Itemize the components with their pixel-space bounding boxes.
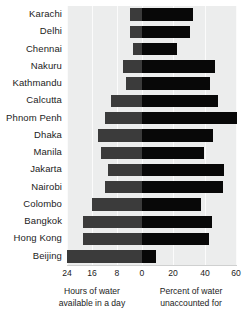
bar-hours-available xyxy=(126,77,142,89)
axis-caption-hours-line2: available in a day xyxy=(44,298,140,310)
bar-hours-available xyxy=(92,198,142,210)
bar-percent-unaccounted xyxy=(142,129,213,141)
bar-percent-unaccounted xyxy=(142,43,177,55)
tick-hours-8: 8 xyxy=(105,268,129,278)
chart-figure: KarachiDelhiChennaiNakuruKathmanduCalcut… xyxy=(0,0,252,320)
bar-row: Bangkok xyxy=(0,213,252,230)
bar-percent-unaccounted xyxy=(142,8,193,20)
tick-pct-20: 20 xyxy=(161,268,185,278)
bar-hours-available xyxy=(130,8,143,20)
bar-row: Kathmandu xyxy=(0,75,252,92)
axis-caption-hours: Hours of water available in a day xyxy=(44,286,140,309)
bar-row: Jakarta xyxy=(0,161,252,178)
bar-percent-unaccounted xyxy=(142,95,218,107)
bar-percent-unaccounted xyxy=(142,181,223,193)
bar-hours-available xyxy=(105,112,143,124)
category-label: Delhi xyxy=(0,24,62,38)
bar-hours-available xyxy=(83,233,142,245)
bar-row: Hong Kong xyxy=(0,230,252,247)
tick-pct-40: 40 xyxy=(193,268,217,278)
axis-caption-percent-line2: unaccounted for xyxy=(143,298,239,310)
bar-percent-unaccounted xyxy=(142,112,237,124)
bar-hours-available xyxy=(111,95,142,107)
bar-row: Colombo xyxy=(0,196,252,213)
bar-hours-available xyxy=(130,26,143,38)
bar-percent-unaccounted xyxy=(142,250,156,262)
bar-percent-unaccounted xyxy=(142,26,190,38)
bar-percent-unaccounted xyxy=(142,77,210,89)
bar-row: Manila xyxy=(0,144,252,161)
category-label: Hong Kong xyxy=(0,231,62,245)
bar-row: Nakuru xyxy=(0,58,252,75)
tick-hours-24: 24 xyxy=(55,268,79,278)
bar-row: Chennai xyxy=(0,41,252,58)
bar-percent-unaccounted xyxy=(142,164,224,176)
category-label: Kathmandu xyxy=(0,76,62,90)
category-label: Nairobi xyxy=(0,180,62,194)
bar-percent-unaccounted xyxy=(142,147,204,159)
bar-row: Beijing xyxy=(0,248,252,265)
bar-hours-available xyxy=(101,147,142,159)
category-label: Dhaka xyxy=(0,128,62,142)
category-label: Nakuru xyxy=(0,59,62,73)
category-label: Karachi xyxy=(0,7,62,21)
category-label: Manila xyxy=(0,145,62,159)
bar-hours-available xyxy=(105,181,143,193)
category-label: Colombo xyxy=(0,197,62,211)
bar-hours-available xyxy=(133,43,142,55)
category-label: Bangkok xyxy=(0,214,62,228)
bar-row: Dhaka xyxy=(0,127,252,144)
category-label: Jakarta xyxy=(0,162,62,176)
tick-pct-60: 60 xyxy=(224,268,248,278)
category-label: Beijing xyxy=(0,249,62,263)
bar-percent-unaccounted xyxy=(142,216,212,228)
bar-hours-available xyxy=(123,60,142,72)
bar-percent-unaccounted xyxy=(142,60,215,72)
bar-hours-available xyxy=(108,164,142,176)
bar-row: Phnom Penh xyxy=(0,110,252,127)
axis-caption-hours-line1: Hours of water xyxy=(44,286,140,298)
axis-line xyxy=(67,265,237,266)
bar-hours-available xyxy=(98,129,142,141)
bar-hours-available xyxy=(83,216,142,228)
bar-row: Calcutta xyxy=(0,92,252,109)
bar-percent-unaccounted xyxy=(142,198,201,210)
bar-row: Delhi xyxy=(0,23,252,40)
tick-zero: 0 xyxy=(130,268,154,278)
category-label: Calcutta xyxy=(0,93,62,107)
bar-row: Karachi xyxy=(0,6,252,23)
axis-caption-percent-line1: Percent of water xyxy=(143,286,239,298)
bar-rows: KarachiDelhiChennaiNakuruKathmanduCalcut… xyxy=(0,6,252,265)
bar-percent-unaccounted xyxy=(142,233,209,245)
category-label: Chennai xyxy=(0,42,62,56)
bar-hours-available xyxy=(67,250,142,262)
axis-caption-percent: Percent of water unaccounted for xyxy=(143,286,239,309)
tick-hours-16: 16 xyxy=(80,268,104,278)
bar-row: Nairobi xyxy=(0,179,252,196)
category-label: Phnom Penh xyxy=(0,111,62,125)
